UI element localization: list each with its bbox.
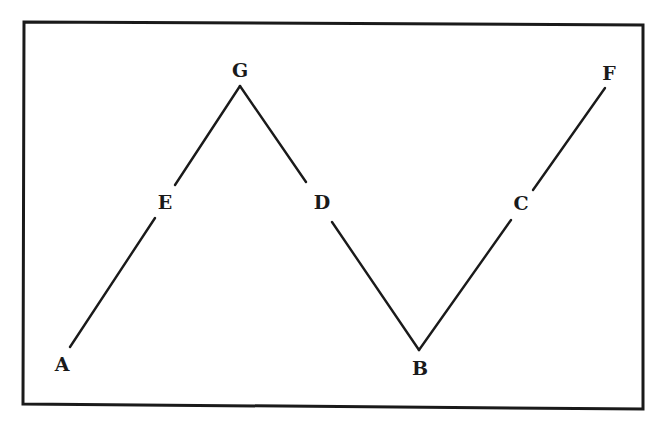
segment-d-b [332, 222, 419, 350]
point-label-b: B [412, 357, 428, 379]
point-label-d: D [314, 191, 330, 213]
point-label-a: A [54, 353, 70, 375]
zigzag-diagram: A E G D B C F [0, 0, 662, 432]
segment-b-c [419, 220, 511, 350]
point-label-c: C [513, 192, 528, 214]
diagram-frame [23, 22, 643, 409]
segment-g-d [240, 86, 306, 182]
segment-e-g [175, 86, 240, 185]
point-label-f: F [602, 62, 616, 84]
segment-c-f [533, 88, 605, 190]
point-label-e: E [158, 191, 172, 213]
point-label-g: G [232, 59, 248, 81]
segment-a-e [70, 218, 155, 347]
